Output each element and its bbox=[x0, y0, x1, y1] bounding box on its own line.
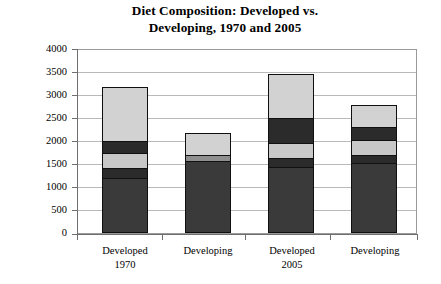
y-axis-label-3500: 3500 bbox=[27, 67, 67, 78]
chart-title: Diet Composition: Developed vs. Developi… bbox=[60, 2, 390, 36]
plot-area bbox=[77, 49, 417, 234]
x-axis-line bbox=[77, 234, 418, 235]
x-axis-tick-3 bbox=[330, 235, 331, 240]
y-axis-label-2000: 2000 bbox=[27, 136, 67, 147]
y-axis-label-500: 500 bbox=[27, 205, 67, 216]
chart-title-line-2: Developing, 1970 and 2005 bbox=[60, 19, 390, 36]
y-axis-label-0: 0 bbox=[27, 228, 67, 239]
gridline-3500 bbox=[78, 72, 416, 73]
bar-segment-5 bbox=[102, 87, 148, 142]
bar-segment-2 bbox=[351, 155, 397, 164]
y-axis-line bbox=[77, 49, 78, 235]
bar-segment-4 bbox=[268, 118, 314, 144]
x-axis-tick-2 bbox=[245, 235, 246, 240]
y-axis-label-1000: 1000 bbox=[27, 182, 67, 193]
bar-segment-4 bbox=[102, 141, 148, 154]
x-axis-label-developed-2005: Developed bbox=[244, 244, 340, 257]
bar-segment-4 bbox=[351, 127, 397, 141]
bar-developing-1970 bbox=[185, 133, 231, 233]
bar-segment-5 bbox=[351, 105, 397, 128]
bar-segment-1 bbox=[102, 178, 148, 233]
bar-developed-2005 bbox=[268, 74, 314, 233]
x-axis-tick-0 bbox=[77, 235, 78, 240]
x-axis-label-developing-1970: Developing bbox=[160, 244, 256, 257]
y-axis-label-3000: 3000 bbox=[27, 90, 67, 101]
bar-developing-2005 bbox=[351, 105, 397, 233]
chart-title-line-1: Diet Composition: Developed vs. bbox=[132, 3, 318, 18]
bar-segment-5 bbox=[185, 133, 231, 156]
y-axis-label-1500: 1500 bbox=[27, 159, 67, 170]
bar-segment-2 bbox=[102, 168, 148, 179]
bar-segment-1 bbox=[351, 163, 397, 233]
x-axis-tick-4 bbox=[417, 235, 418, 240]
bar-segment-5 bbox=[268, 74, 314, 119]
x-axis-tick-1 bbox=[162, 235, 163, 240]
x-axis-label-developing-2005: Developing bbox=[327, 244, 423, 257]
bar-segment-2 bbox=[268, 158, 314, 168]
x-axis-group-label-1970: 1970 bbox=[70, 258, 180, 271]
bar-segment-3 bbox=[268, 143, 314, 159]
chart-container: Diet Composition: Developed vs. Developi… bbox=[0, 0, 441, 284]
x-axis-label-developed-1970: Developed bbox=[77, 244, 173, 257]
bar-segment-1 bbox=[268, 167, 314, 233]
y-axis-label-4000: 4000 bbox=[27, 44, 67, 55]
bar-segment-3 bbox=[102, 153, 148, 169]
y-axis-label-2500: 2500 bbox=[27, 113, 67, 124]
bar-segment-2 bbox=[185, 155, 231, 162]
bar-segment-3 bbox=[351, 140, 397, 156]
bar-segment-1 bbox=[185, 161, 231, 233]
x-axis-group-label-2005: 2005 bbox=[237, 258, 347, 271]
bar-developed-1970 bbox=[102, 87, 148, 233]
